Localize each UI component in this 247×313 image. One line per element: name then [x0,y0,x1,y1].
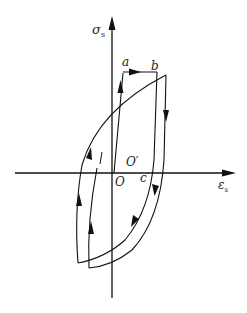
y-axis-label: σs [92,22,105,39]
arrow-down-outer-icon [152,184,159,196]
point-o-label: O [115,175,125,189]
outer-unloading-curve [89,75,166,268]
point-b-label: b [151,59,159,73]
outer-reloading-curve [89,168,97,268]
arrow-down-right-icon [163,110,169,122]
x-axis-label: εs [218,178,228,194]
inner-unloading-curve [78,72,157,263]
point-a-label: a [122,55,129,69]
hysteresis-diagram: σs εs a b O′ O c [0,0,247,313]
tick-mark [100,152,102,164]
arrow-up-left-curve-icon [86,147,92,160]
y-axis-arrow-icon [109,16,116,30]
hysteresis-curves [77,72,166,268]
point-o-prime-label: O′ [126,155,139,169]
arrow-up-left-icon [76,193,82,206]
arrow-right-ab-icon [129,69,141,76]
point-c-label: c [140,171,147,185]
x-axis-arrow-icon [222,170,236,177]
